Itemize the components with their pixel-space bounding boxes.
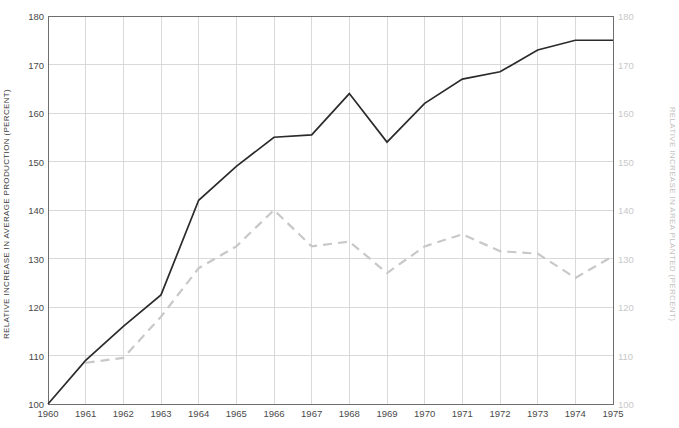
y-tick-label-left: 110: [18, 350, 44, 361]
x-tick-label: 1969: [376, 408, 397, 419]
y-tick-label-left: 130: [18, 253, 44, 264]
x-tick-label: 1973: [527, 408, 548, 419]
x-tick-label: 1970: [414, 408, 435, 419]
x-tick-label: 1971: [452, 408, 473, 419]
chart-container: RELATIVE INCREASE IN AVERAGE PRODUCTION …: [0, 0, 679, 428]
x-tick-label: 1963: [150, 408, 171, 419]
x-tick-label: 1974: [565, 408, 586, 419]
y-tick-label-right: 120: [618, 302, 644, 313]
y-tick-label-right: 150: [618, 156, 644, 167]
x-tick-label: 1966: [263, 408, 284, 419]
x-tick-label: 1965: [226, 408, 247, 419]
x-tick-label: 1964: [188, 408, 209, 419]
x-tick-label: 1960: [37, 408, 58, 419]
x-tick-label: 1972: [489, 408, 510, 419]
series-line-0: [48, 40, 613, 404]
x-tick-label: 1968: [339, 408, 360, 419]
grid-lines: [48, 16, 613, 404]
x-tick-label: 1975: [602, 408, 623, 419]
y-tick-label-left: 120: [18, 302, 44, 313]
data-series-layer: [48, 40, 613, 404]
plot-area: [0, 0, 679, 428]
y-tick-label-left: 140: [18, 205, 44, 216]
y-tick-label-left: 170: [18, 59, 44, 70]
y-tick-label-left: 150: [18, 156, 44, 167]
y-tick-label-left: 180: [18, 11, 44, 22]
y-tick-label-right: 170: [618, 59, 644, 70]
y-tick-label-right: 160: [618, 108, 644, 119]
y-tick-label-right: 110: [618, 350, 644, 361]
x-tick-label: 1967: [301, 408, 322, 419]
y-tick-label-right: 140: [618, 205, 644, 216]
x-tick-label: 1962: [113, 408, 134, 419]
y-tick-label-left: 160: [18, 108, 44, 119]
y-tick-label-right: 180: [618, 11, 644, 22]
y-tick-label-right: 130: [618, 253, 644, 264]
x-tick-label: 1961: [75, 408, 96, 419]
